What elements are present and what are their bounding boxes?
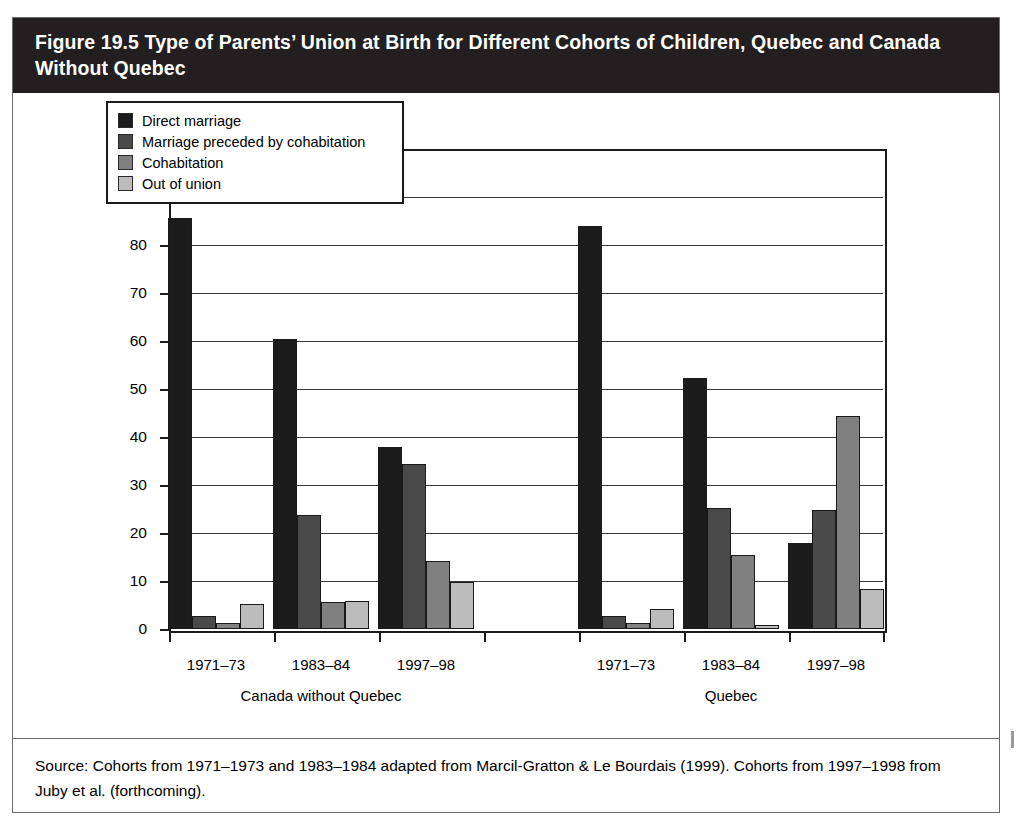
y-tick-label: 60 — [101, 333, 147, 349]
x-tick-mark — [883, 631, 885, 642]
bar-cohabitation-198384 — [731, 555, 755, 629]
x-group-label: Canada without Quebec — [211, 687, 431, 704]
figure-frame: Figure 19.5 Type of Parents’ Union at Bi… — [12, 17, 1000, 813]
bar-marriage-preceded-by-cohabitation-197173 — [602, 616, 626, 629]
legend-item-label: Direct marriage — [142, 113, 241, 129]
y-tick-mark — [160, 629, 169, 631]
bar-marriage-preceded-by-cohabitation-199798 — [812, 510, 836, 629]
page-edge-mark — [1011, 731, 1014, 748]
chart-legend: Direct marriageMarriage preceded by coha… — [106, 101, 404, 204]
y-tick-label: 20 — [101, 525, 147, 541]
y-tick-label: 70 — [101, 285, 147, 301]
bar-cohabitation-199798 — [426, 561, 450, 629]
x-cohort-label: 1983–84 — [681, 656, 781, 673]
bar-series-layer — [169, 149, 883, 629]
bar-direct-marriage-197173 — [168, 218, 192, 629]
x-cohort-label: 1997–98 — [376, 656, 476, 673]
legend-item: Direct marriage — [118, 110, 392, 131]
bar-direct-marriage-198384 — [273, 339, 297, 629]
x-tick-mark — [579, 631, 581, 642]
y-tick-label: 50 — [101, 381, 147, 397]
x-tick-mark — [169, 631, 171, 642]
bar-direct-marriage-199798 — [788, 543, 812, 629]
legend-swatch-icon — [118, 113, 133, 128]
x-cohort-label: 1971–73 — [166, 656, 266, 673]
source-note: Source: Cohorts from 1971–1973 and 1983–… — [35, 753, 975, 803]
bar-out-of-union-199798 — [450, 582, 474, 629]
bar-out-of-union-197173 — [650, 609, 674, 629]
x-tick-mark — [684, 631, 686, 642]
x-cohort-label: 1997–98 — [786, 656, 886, 673]
legend-swatch-icon — [118, 176, 133, 191]
figure-title: Figure 19.5 Type of Parents’ Union at Bi… — [35, 29, 975, 81]
legend-swatch-icon — [118, 134, 133, 149]
bar-direct-marriage-197173 — [578, 226, 602, 629]
y-tick-label: 40 — [101, 429, 147, 445]
x-tick-mark — [789, 631, 791, 642]
bar-marriage-preceded-by-cohabitation-199798 — [402, 464, 426, 629]
x-tick-mark — [484, 631, 486, 642]
bar-cohabitation-197173 — [626, 623, 650, 629]
x-cohort-label: 1971–73 — [576, 656, 676, 673]
y-tick-label: 30 — [101, 477, 147, 493]
chart-canvas: % 1009080706050403020100 1971–731983–841… — [13, 93, 999, 738]
bar-marriage-preceded-by-cohabitation-198384 — [707, 508, 731, 629]
bar-direct-marriage-198384 — [683, 378, 707, 629]
x-group-label: Quebec — [621, 687, 841, 704]
bar-out-of-union-198384 — [755, 625, 779, 629]
bar-direct-marriage-199798 — [378, 447, 402, 629]
source-divider — [13, 738, 999, 739]
y-tick-label: 80 — [101, 237, 147, 253]
bar-cohabitation-197173 — [216, 623, 240, 629]
legend-item: Marriage preceded by cohabitation — [118, 131, 392, 152]
legend-item-label: Marriage preceded by cohabitation — [142, 134, 365, 150]
bar-out-of-union-198384 — [345, 601, 369, 629]
legend-swatch-icon — [118, 155, 133, 170]
bar-out-of-union-197173 — [240, 604, 264, 629]
x-tick-mark — [379, 631, 381, 642]
bar-out-of-union-199798 — [860, 589, 884, 629]
y-tick-label: 10 — [101, 573, 147, 589]
bar-cohabitation-198384 — [321, 602, 345, 629]
x-cohort-label: 1983–84 — [271, 656, 371, 673]
figure-title-band: Figure 19.5 Type of Parents’ Union at Bi… — [13, 18, 999, 93]
bar-marriage-preceded-by-cohabitation-198384 — [297, 515, 321, 629]
legend-item-label: Cohabitation — [142, 155, 223, 171]
y-tick-label: 0 — [101, 621, 147, 637]
legend-item: Out of union — [118, 173, 392, 194]
bar-marriage-preceded-by-cohabitation-197173 — [192, 616, 216, 629]
legend-item: Cohabitation — [118, 152, 392, 173]
legend-item-label: Out of union — [142, 176, 221, 192]
bar-cohabitation-199798 — [836, 416, 860, 629]
x-tick-mark — [274, 631, 276, 642]
